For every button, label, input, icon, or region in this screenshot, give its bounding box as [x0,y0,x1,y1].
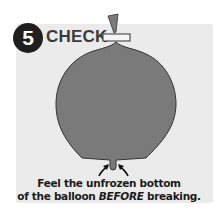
left-arrow-icon [99,164,109,176]
caption-line-1: Feel the unfrozen bottom [0,177,218,190]
caption-line-2-prefix: of the balloon [17,190,99,202]
instruction-caption: Feel the unfrozen bottom of the balloon … [0,177,218,203]
right-arrow-icon [118,164,128,176]
caption-line-2-suffix: breaking. [144,190,201,202]
caption-emphasis: BEFORE [99,190,144,202]
caption-line-2: of the balloon BEFORE breaking. [0,190,218,203]
balloon-clip [103,34,130,41]
balloon-knot [108,14,118,33]
balloon-body [56,42,176,170]
